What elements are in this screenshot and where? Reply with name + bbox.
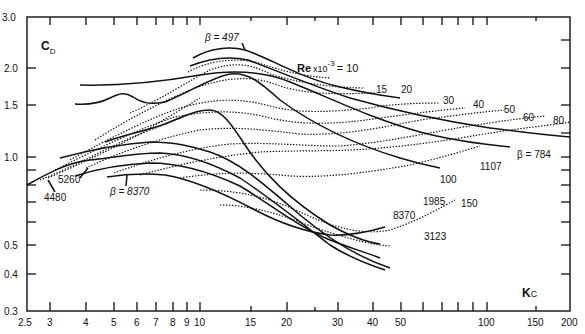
re-150-curve	[200, 190, 455, 232]
label-1107: 1107	[480, 161, 502, 172]
label-8370-right: 8370	[393, 210, 416, 221]
x-tick-8: 8	[170, 317, 176, 328]
x-tick-200: 200	[561, 317, 578, 328]
y-axis-ticks-left	[27, 68, 36, 274]
label-beta-497: β = 497	[204, 32, 239, 43]
re-left-rising-1	[40, 114, 190, 180]
beta-784-lower-curve	[80, 72, 510, 147]
beta-5260-curve	[75, 163, 380, 258]
re-header-label: Rex10-3= 10	[297, 59, 358, 74]
y-axis-labels: 3.0 2.0 1.5 1.0 0.5 0.4 0.3	[2, 12, 18, 317]
label-re-80: 80	[553, 115, 565, 126]
x-tick-50: 50	[395, 317, 407, 328]
x-tick-10: 10	[194, 317, 206, 328]
y-tick-1.0: 1.0	[4, 152, 18, 163]
y-tick-1.5: 1.5	[4, 100, 18, 111]
drag-coefficient-chart: 3.0 2.0 1.5 1.0 0.5 0.4 0.3 2.5 3 4 5 6 …	[0, 0, 585, 334]
re-40-curve	[55, 108, 465, 170]
x-tick-100: 100	[478, 317, 495, 328]
x-axis-title: KC	[522, 286, 538, 300]
y-axis-title: CD	[41, 39, 56, 56]
y-tick-2.0: 2.0	[4, 63, 18, 74]
x-axis-ticks-bottom	[50, 302, 536, 311]
x-tick-7: 7	[153, 317, 159, 328]
label-re-50: 50	[504, 104, 516, 115]
x-tick-5: 5	[111, 317, 117, 328]
beta-3123-curve	[60, 142, 390, 268]
leader-8370	[126, 175, 127, 186]
y-tick-3.0: 3.0	[2, 12, 16, 23]
x-tick-30: 30	[332, 317, 344, 328]
label-re-15: 15	[376, 84, 388, 95]
beta-curves	[27, 48, 570, 270]
y-axis-ticks-right	[561, 40, 570, 274]
label-4480: 4480	[44, 192, 67, 203]
x-axis-labels: 2.5 3 4 5 6 7 8 9 10 15 20 30 40 50 100 …	[18, 317, 578, 328]
y-tick-0.5: 0.5	[4, 240, 18, 251]
leader-4480	[48, 180, 55, 192]
beta-4480-curve	[27, 153, 385, 270]
label-re-60: 60	[523, 112, 535, 123]
x-tick-15: 15	[245, 317, 257, 328]
label-beta-784: β = 784	[517, 149, 551, 160]
label-re-20: 20	[401, 84, 413, 95]
beta-8370-curve	[107, 174, 385, 235]
label-beta-8370: β = 8370	[109, 186, 150, 197]
x-tick-40: 40	[367, 317, 379, 328]
x-tick-3: 3	[47, 317, 53, 328]
x-tick-4: 4	[83, 317, 89, 328]
label-re-30: 30	[443, 95, 455, 106]
label-1985: 1985	[423, 196, 446, 207]
label-re-150: 150	[461, 198, 478, 209]
y-tick-0.3: 0.3	[4, 306, 18, 317]
y-tick-0.4: 0.4	[4, 269, 18, 280]
x-tick-9: 9	[184, 317, 190, 328]
x-axis-ticks-top	[50, 17, 536, 25]
label-re-100: 100	[440, 174, 457, 185]
x-tick-150: 150	[527, 317, 544, 328]
x-tick-2.5: 2.5	[18, 317, 32, 328]
beta-784-curve	[190, 58, 570, 137]
label-re-40: 40	[473, 99, 485, 110]
x-tick-6: 6	[134, 317, 140, 328]
re-50-curve	[86, 110, 505, 168]
label-5260: 5260	[58, 174, 81, 185]
label-3123: 3123	[424, 231, 447, 242]
x-tick-20: 20	[281, 317, 293, 328]
